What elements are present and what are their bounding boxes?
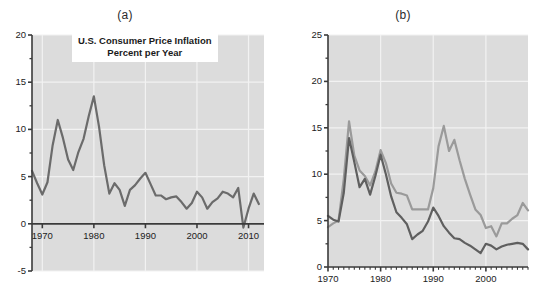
chart-a-title-line2: Percent per Year bbox=[78, 47, 212, 59]
figure-root: (a) U.S. Consumer Price Inflation Percen… bbox=[0, 0, 537, 289]
y-axis-tick-label: 10 bbox=[4, 123, 26, 134]
y-axis-tick-label: 5 bbox=[304, 215, 322, 226]
chart-b-canvas bbox=[270, 0, 537, 289]
y-axis-tick-label: 10 bbox=[304, 168, 322, 179]
y-axis-tick-label: 25 bbox=[304, 29, 322, 40]
panel-b: (b) World Consumer Price Inflation Perce… bbox=[270, 0, 537, 289]
y-axis-tick-label: 20 bbox=[304, 75, 322, 86]
x-axis-tick-label: 2010 bbox=[233, 230, 265, 241]
x-axis-tick-label: 1980 bbox=[78, 230, 110, 241]
x-axis-tick-label: 1990 bbox=[417, 273, 449, 284]
y-axis-tick-label: 15 bbox=[304, 122, 322, 133]
x-axis-tick-label: 1970 bbox=[26, 230, 58, 241]
chart-a-title-line1: U.S. Consumer Price Inflation bbox=[78, 35, 212, 47]
x-axis-tick-label: 2000 bbox=[470, 273, 502, 284]
y-axis-tick-label: 20 bbox=[4, 29, 26, 40]
y-axis-tick-label: 0 bbox=[304, 261, 322, 272]
y-axis-tick-label: 15 bbox=[4, 76, 26, 87]
y-axis-tick-label: 0 bbox=[4, 218, 26, 229]
panel-a: (a) U.S. Consumer Price Inflation Percen… bbox=[0, 0, 270, 289]
y-axis-tick-label: -5 bbox=[4, 265, 26, 276]
y-axis-tick-label: 5 bbox=[4, 171, 26, 182]
x-axis-tick-label: 1970 bbox=[312, 273, 344, 284]
x-axis-tick-label: 2000 bbox=[181, 230, 213, 241]
x-axis-tick-label: 1990 bbox=[129, 230, 161, 241]
x-axis-tick-label: 1980 bbox=[365, 273, 397, 284]
chart-a-title-box: U.S. Consumer Price Inflation Percent pe… bbox=[72, 32, 218, 62]
